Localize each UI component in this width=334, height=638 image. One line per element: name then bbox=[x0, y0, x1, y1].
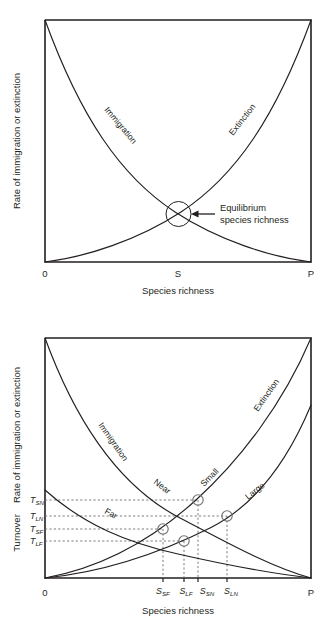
x-tick-label-p-top: P bbox=[308, 268, 314, 279]
x-tick-label-0-top: 0 bbox=[42, 268, 47, 279]
y-tick-label-tsn: TSN bbox=[30, 495, 45, 506]
x-tick-label-s-top: S bbox=[175, 268, 181, 279]
x-axis-title-bottom: Species richness bbox=[142, 605, 214, 616]
panel-bottom: Immigration Near Far Extinction Small La… bbox=[0, 300, 334, 638]
curve-small-extinction bbox=[45, 338, 311, 578]
curve-label-extinction-top: Extinction bbox=[227, 102, 258, 138]
x-tick-label-ssf: SSF bbox=[156, 586, 171, 597]
plot-frame-top bbox=[45, 20, 311, 262]
equilibrium-annotation-line2: species richness bbox=[220, 215, 289, 225]
x-tick-label-slf: SLF bbox=[179, 586, 193, 597]
curve-large-extinction bbox=[45, 405, 311, 578]
plot-frame-bottom bbox=[45, 338, 311, 578]
x-tick-label-0-bottom: 0 bbox=[42, 587, 47, 598]
curve-immigration-top bbox=[45, 20, 311, 262]
y-axis-title-turnover: Turnover bbox=[11, 514, 22, 552]
island-biogeography-figure: Equilibrium species richness Immigration… bbox=[0, 0, 334, 638]
curve-label-near: Near bbox=[152, 477, 173, 496]
y-axis-title-top: Rate of immigration or extinction bbox=[11, 73, 22, 209]
curve-label-large: Large bbox=[243, 480, 267, 502]
curve-label-extinction-bottom: Extinction bbox=[251, 377, 281, 413]
curve-label-far: Far bbox=[103, 506, 119, 521]
curve-label-small: Small bbox=[198, 466, 220, 488]
equilibrium-annotation-line1: Equilibrium bbox=[220, 203, 266, 213]
y-axis-title-bottom: Rate of immigration or extinction bbox=[11, 367, 22, 503]
panel-bottom-svg: Immigration Near Far Extinction Small La… bbox=[0, 300, 334, 638]
curve-label-immigration-bottom: Immigration bbox=[96, 420, 130, 463]
panel-top: Equilibrium species richness Immigration… bbox=[0, 0, 334, 300]
x-tick-label-sln: SLN bbox=[224, 586, 238, 597]
curve-far-immigration bbox=[45, 490, 311, 578]
equilibrium-arrow-head bbox=[191, 211, 199, 218]
panel-top-svg: Equilibrium species richness Immigration… bbox=[0, 0, 334, 300]
y-tick-label-tln: TLN bbox=[30, 511, 44, 522]
curve-near-immigration bbox=[45, 338, 311, 578]
y-tick-label-tsf: TSF bbox=[30, 524, 45, 535]
x-tick-label-p-bottom: P bbox=[308, 587, 314, 598]
x-axis-title-top: Species richness bbox=[142, 285, 214, 296]
curve-extinction-top bbox=[45, 20, 311, 262]
y-tick-label-tlf: TLF bbox=[30, 536, 44, 547]
x-tick-label-ssn: SSN bbox=[200, 586, 215, 597]
curve-label-immigration-top: Immigration bbox=[102, 105, 139, 146]
